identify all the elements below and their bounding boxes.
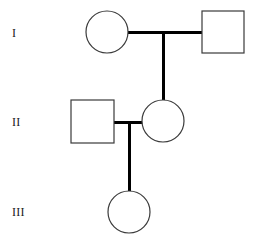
individual-iii-1-female-circle[interactable] — [108, 191, 150, 233]
pedigree-diagram: I II III — [0, 0, 255, 248]
generation-label-iii: III — [12, 206, 25, 218]
generation-iii-group — [108, 191, 150, 233]
generation-label-ii: II — [12, 116, 21, 128]
pedigree-canvas — [0, 0, 255, 248]
individual-ii-2-female-circle[interactable] — [142, 100, 184, 142]
individual-i-2-male-square[interactable] — [202, 11, 244, 53]
individual-ii-1-male-square[interactable] — [71, 100, 114, 143]
individual-i-1-female-circle[interactable] — [86, 11, 128, 53]
generation-label-i: I — [12, 27, 16, 39]
